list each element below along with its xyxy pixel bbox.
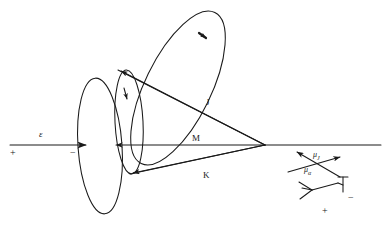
inner-cone-base-ellipse xyxy=(112,69,145,174)
k-precession-direction-marker xyxy=(124,88,127,99)
mu-j-subscript: J xyxy=(317,155,320,161)
cone-generator-lower xyxy=(130,145,265,174)
mu-j-label: μJ xyxy=(313,151,320,161)
dipole-stem xyxy=(312,183,338,190)
field-label: ε xyxy=(39,130,43,139)
vector-j-label: J xyxy=(206,98,210,107)
vector-coupling-diagram: ε + − J M K μJ μα + − xyxy=(0,0,387,227)
mu-alpha-subscript: α xyxy=(308,170,311,176)
j-precession-direction-marker xyxy=(199,33,206,38)
vector-m-label: M xyxy=(192,134,200,143)
dipole-connector xyxy=(338,183,343,185)
field-minus-sign: − xyxy=(70,148,76,158)
dipole-branch-lower xyxy=(300,190,312,199)
j-precession-ellipse xyxy=(112,0,245,178)
field-plus-sign: + xyxy=(10,148,16,158)
dipole-plus-sign: + xyxy=(322,206,328,216)
vector-k-label: K xyxy=(203,171,210,180)
dipole-minus-sign: − xyxy=(348,193,354,203)
diagram-canvas xyxy=(0,0,387,227)
mu-alpha-label: μα xyxy=(304,166,311,176)
outer-cone-base-ellipse xyxy=(73,77,126,216)
